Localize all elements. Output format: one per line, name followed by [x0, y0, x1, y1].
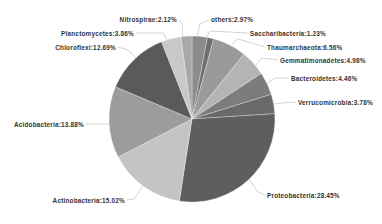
slice-label-bacteroidetes: Bacteroidetes:4.46%: [291, 75, 357, 82]
leader-line-proteobacteria: [249, 179, 265, 195]
leader-line-thaumarchaeota: [232, 39, 265, 47]
leader-line-bacteroidetes: [268, 78, 289, 83]
leader-line-chloroflexi: [118, 47, 136, 58]
pie-slices: [109, 36, 275, 202]
slice-label-saccharibacteria: Saccharibacteria:1.23%: [250, 30, 326, 37]
leader-line-others: [197, 20, 209, 37]
slice-label-verrucomicrobia: Verrucomicrobia:3.78%: [298, 99, 373, 106]
slice-label-actinobacteria: Actinobacteria:15.02%: [53, 197, 126, 204]
leader-line-actinobacteria: [127, 186, 143, 200]
leader-line-gemmatimonadetes: [256, 58, 278, 65]
leader-line-nitrospirae: [179, 20, 183, 37]
slice-label-proteobacteria: Proteobacteria:28.45%: [267, 192, 340, 199]
pie-chart: others:2.97%Saccharibacteria:1.23%Thauma…: [0, 0, 382, 224]
leader-line-planctomycetes: [136, 33, 167, 40]
slice-label-planctomycetes: Planctomycetes:3.86%: [61, 30, 134, 38]
pie-chart-svg: others:2.97%Saccharibacteria:1.23%Thauma…: [0, 0, 382, 224]
leader-line-verrucomicrobia: [274, 102, 296, 104]
slice-label-acidobacteria: Acidobacteria:13.88%: [14, 121, 84, 128]
slice-label-nitrospirae: Nitrospirae:2.12%: [120, 16, 178, 24]
slice-label-chloroflexi: Chloroflexi:12.69%: [55, 44, 116, 51]
slice-label-thaumarchaeota: Thaumarchaeota:6.56%: [267, 44, 343, 51]
slice-label-gemmatimonadetes: Gemmatimonadetes:4.98%: [280, 57, 366, 64]
slice-label-others: others:2.97%: [211, 16, 253, 23]
pie-slice-proteobacteria: [179, 114, 275, 202]
leader-line-saccharibacteria: [206, 31, 248, 38]
